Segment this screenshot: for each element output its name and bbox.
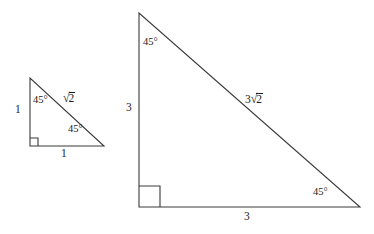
large-triangle-bottom-right-angle-label: 45°: [313, 187, 328, 198]
small-triangle-top-angle-label: 45°: [33, 95, 48, 106]
large-triangle-horizontal-leg-label: 3: [244, 211, 250, 223]
radical-radicand-small: 2: [69, 92, 76, 105]
large-triangle-top-angle-label: 45°: [143, 37, 158, 48]
radical-expression-large: 3√2: [245, 93, 263, 106]
large-triangle-hypotenuse-label: 3√2: [245, 93, 263, 106]
radical-radicand-large: 2: [256, 93, 263, 106]
large-triangle-right-angle-marker: [139, 186, 160, 207]
geometry-figure: 45° 45° 1 1 √2 45° 45° 3 3 3√2: [0, 0, 374, 234]
small-triangle-group: [30, 78, 104, 146]
radical-sign-icon-large: √2: [251, 93, 263, 106]
small-triangle-right-angle-marker: [30, 138, 38, 146]
small-triangle-vertical-leg-label: 1: [15, 104, 21, 116]
small-triangle-hypotenuse-label: √2: [63, 92, 75, 105]
radical-sign-icon-small: √2: [63, 92, 75, 105]
large-triangle-group: [139, 13, 360, 207]
small-triangle-outline: [30, 78, 104, 146]
small-triangle-bottom-right-angle-label: 45°: [68, 124, 83, 135]
figure-canvas: [0, 0, 374, 234]
radical-expression-small: √2: [63, 92, 75, 105]
small-triangle-horizontal-leg-label: 1: [61, 148, 67, 160]
large-triangle-vertical-leg-label: 3: [126, 102, 132, 114]
large-triangle-outline: [139, 13, 360, 207]
